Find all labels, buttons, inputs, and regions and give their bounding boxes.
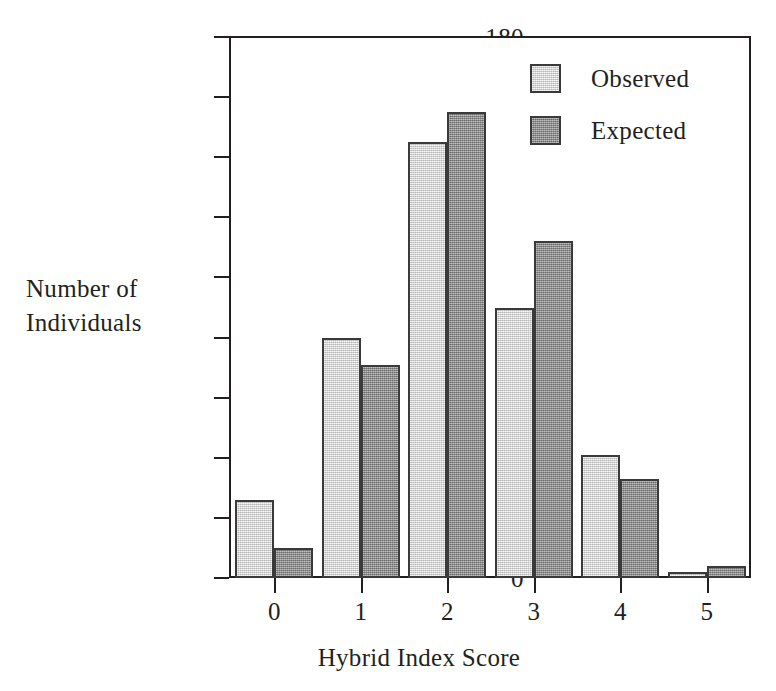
chart-legend: Observed Expected xyxy=(530,52,689,156)
y-tick-mark xyxy=(214,276,229,278)
x-tick-mark xyxy=(620,578,622,593)
bar-observed-1 xyxy=(322,338,361,578)
bar-expected-3 xyxy=(534,241,573,578)
legend-swatch-expected xyxy=(530,116,561,145)
x-tick-label: 0 xyxy=(254,599,294,624)
legend-item-observed: Observed xyxy=(530,52,689,104)
bar-observed-0 xyxy=(235,500,274,578)
x-tick-label: 1 xyxy=(341,599,381,624)
y-tick-mark xyxy=(214,457,229,459)
y-tick-mark xyxy=(214,156,229,158)
bar-observed-3 xyxy=(495,308,534,579)
x-tick-mark xyxy=(534,578,536,593)
y-axis-title-line-2: Individuals xyxy=(26,306,142,340)
legend-label-observed: Observed xyxy=(591,66,689,91)
x-tick-label: 5 xyxy=(687,599,727,624)
y-tick-mark xyxy=(214,397,229,399)
bar-chart-figure: Number of Individuals 020406080100120140… xyxy=(0,0,776,691)
y-axis-title-line-1: Number of xyxy=(26,272,142,306)
bar-expected-2 xyxy=(447,112,486,578)
x-tick-mark xyxy=(274,578,276,593)
y-tick-mark xyxy=(214,36,229,38)
y-tick-mark xyxy=(214,517,229,519)
y-tick-mark xyxy=(214,337,229,339)
y-tick-mark xyxy=(214,577,229,579)
x-tick-mark xyxy=(707,578,709,593)
x-tick-label: 4 xyxy=(600,599,640,624)
bar-observed-2 xyxy=(408,142,447,578)
bar-observed-4 xyxy=(581,455,620,578)
bar-expected-0 xyxy=(274,548,313,578)
bar-expected-5 xyxy=(707,566,746,578)
x-tick-mark xyxy=(447,578,449,593)
y-tick-mark xyxy=(214,216,229,218)
x-tick-mark xyxy=(361,578,363,593)
bar-expected-1 xyxy=(361,365,400,578)
x-axis-title: Hybrid Index Score xyxy=(0,645,776,670)
x-tick-label: 2 xyxy=(427,599,467,624)
y-axis-title: Number of Individuals xyxy=(26,272,142,340)
legend-label-expected: Expected xyxy=(591,118,686,143)
bar-expected-4 xyxy=(620,479,659,578)
legend-item-expected: Expected xyxy=(530,104,689,156)
legend-swatch-observed xyxy=(530,64,561,93)
bar-observed-5 xyxy=(668,572,707,578)
y-tick-mark xyxy=(214,96,229,98)
x-tick-label: 3 xyxy=(514,599,554,624)
